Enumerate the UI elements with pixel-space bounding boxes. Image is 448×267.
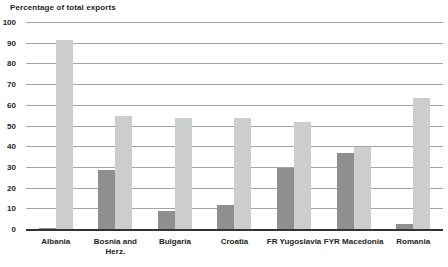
y-tick-label-10: 10 xyxy=(7,205,16,213)
bar-group-bulgaria xyxy=(145,23,205,230)
y-tick-label-0: 0 xyxy=(12,226,16,234)
x-axis-label-bulgaria: Bulgaria xyxy=(145,237,205,247)
bar-romania-light-gray-series xyxy=(413,98,430,230)
bar-croatia-dark-gray-series xyxy=(217,205,234,230)
plot-area xyxy=(26,23,443,230)
bar-fyr-macedonia-light-gray-series xyxy=(354,147,371,230)
x-axis-label-croatia: Croatia xyxy=(205,237,265,247)
y-tick-label-50: 50 xyxy=(7,123,16,131)
y-axis-labels: 0102030405060708090100 xyxy=(0,23,16,230)
bar-group-romania xyxy=(383,23,443,230)
x-axis-label-bosnia-and-herz: Bosnia and Herz. xyxy=(86,237,146,257)
bar-group-fyr-macedonia xyxy=(324,23,384,230)
x-axis-label-fyr-macedonia: FYR Macedonia xyxy=(324,237,384,247)
y-tick-label-30: 30 xyxy=(7,164,16,172)
bar-group-albania xyxy=(26,23,86,230)
x-axis-label-fr-yugoslavia: FR Yugoslavia xyxy=(264,237,324,247)
bar-croatia-light-gray-series xyxy=(234,118,251,230)
bar-bosnia-and-herz-dark-gray-series xyxy=(98,170,115,230)
bar-group-fr-yugoslavia xyxy=(264,23,324,230)
x-axis-line xyxy=(26,229,443,231)
y-tick-label-100: 100 xyxy=(3,19,16,27)
chart-title: Percentage of total exports xyxy=(10,3,116,12)
bar-fr-yugoslavia-dark-gray-series xyxy=(277,168,294,230)
bar-group-bosnia-and-herz xyxy=(86,23,146,230)
y-tick-label-70: 70 xyxy=(7,81,16,89)
bar-albania-light-gray-series xyxy=(56,40,73,230)
bar-bulgaria-light-gray-series xyxy=(175,118,192,230)
y-tick-label-90: 90 xyxy=(7,40,16,48)
x-axis-label-romania: Romania xyxy=(383,237,443,247)
y-tick-label-20: 20 xyxy=(7,185,16,193)
bar-bulgaria-dark-gray-series xyxy=(158,211,175,230)
y-tick-label-40: 40 xyxy=(7,143,16,151)
bar-fr-yugoslavia-light-gray-series xyxy=(294,122,311,230)
bar-group-croatia xyxy=(205,23,265,230)
x-axis-label-albania: Albania xyxy=(26,237,86,247)
y-tick-label-60: 60 xyxy=(7,102,16,110)
x-axis-labels: AlbaniaBosnia and Herz.BulgariaCroatiaFR… xyxy=(26,237,443,261)
chart: Percentage of total exports 010203040506… xyxy=(0,0,448,267)
y-tick-label-80: 80 xyxy=(7,60,16,68)
bar-fyr-macedonia-dark-gray-series xyxy=(337,153,354,230)
bar-bosnia-and-herz-light-gray-series xyxy=(115,116,132,230)
